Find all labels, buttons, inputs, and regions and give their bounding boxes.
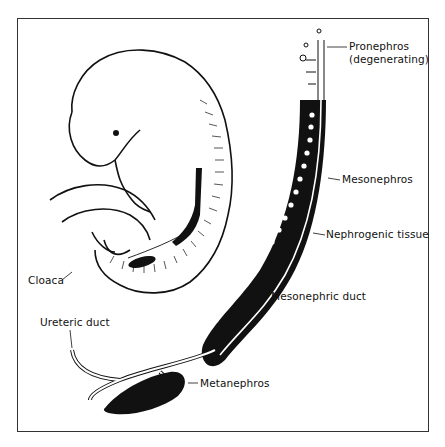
label-mesonephric-duct: Mesonephric duct bbox=[271, 290, 366, 302]
embryo-eye bbox=[113, 130, 119, 136]
embryo-mesonephros bbox=[127, 168, 202, 270]
embryo-drawing bbox=[50, 50, 232, 293]
label-nephrogenic-tissue: Nephrogenic tissue bbox=[326, 228, 429, 240]
nephric-band bbox=[202, 100, 326, 366]
label-cloaca: Cloaca bbox=[28, 274, 64, 286]
label-pronephros-degenerating: (degenerating) bbox=[349, 53, 429, 65]
label-pronephros: Pronephros bbox=[349, 40, 409, 52]
label-mesonephros: Mesonephros bbox=[342, 173, 413, 185]
pronephros-drawing bbox=[300, 29, 324, 100]
label-ureteric-duct: Ureteric duct bbox=[40, 316, 110, 328]
label-metanephros: Metanephros bbox=[200, 377, 270, 389]
somite-ticks bbox=[110, 100, 224, 273]
